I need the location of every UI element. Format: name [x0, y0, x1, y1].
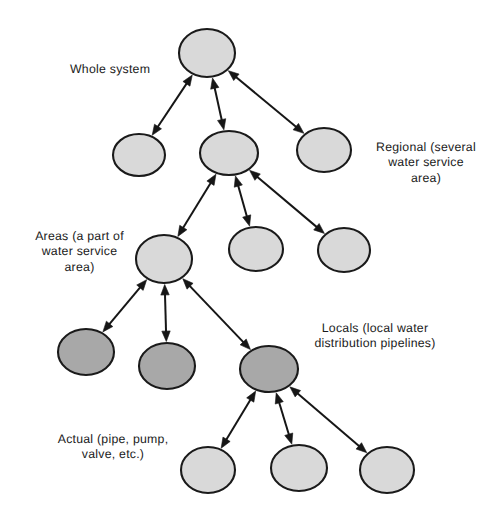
- node-reg-right[interactable]: [297, 128, 351, 172]
- edge-n-local-3-to-n-actual-3: [290, 387, 367, 453]
- node-actual-1[interactable]: [181, 447, 235, 493]
- node-reg-mid[interactable]: [200, 131, 258, 175]
- edge-n-root-to-n-reg-left: [152, 75, 192, 135]
- label-areas: Areas (a part of water service area): [17, 229, 142, 275]
- edge-n-root-to-n-reg-mid: [211, 78, 226, 130]
- edge-n-area-left-to-n-local-1: [103, 280, 147, 332]
- label-whole-system: Whole system: [70, 62, 170, 77]
- node-actual-2[interactable]: [271, 445, 327, 491]
- node-area-left[interactable]: [136, 235, 192, 283]
- edge-n-root-to-n-reg-right: [228, 71, 304, 134]
- node-local-2[interactable]: [139, 343, 195, 389]
- node-local-3[interactable]: [240, 346, 298, 392]
- edge-n-reg-mid-to-n-area-mid: [234, 176, 251, 226]
- node-root[interactable]: [179, 29, 235, 77]
- label-actual: Actual (pipe, pump, valve, etc.): [37, 432, 189, 463]
- node-local-1[interactable]: [58, 329, 114, 375]
- node-area-mid[interactable]: [229, 227, 283, 271]
- edge-n-area-left-to-n-local-3: [183, 279, 251, 350]
- edge-n-area-left-to-n-local-2: [161, 284, 170, 341]
- edge-n-reg-mid-to-n-area-right: [250, 170, 325, 233]
- label-regional: Regional (several water service area): [362, 140, 490, 186]
- edge-n-reg-mid-to-n-area-left: [178, 174, 216, 236]
- label-locals: Locals (local water distribution pipelin…: [297, 321, 453, 352]
- edge-n-local-3-to-n-actual-1: [221, 391, 256, 448]
- node-reg-left[interactable]: [113, 134, 165, 176]
- edge-n-local-3-to-n-actual-2: [275, 393, 293, 444]
- node-actual-3[interactable]: [360, 447, 414, 493]
- node-area-right[interactable]: [318, 228, 370, 272]
- diagram-canvas: Whole systemRegional (several water serv…: [0, 0, 498, 524]
